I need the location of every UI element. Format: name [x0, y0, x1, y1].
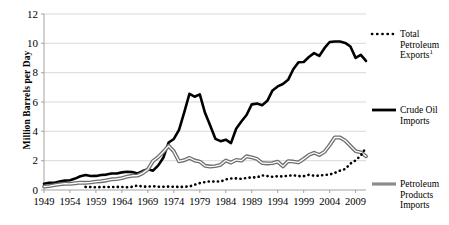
data-series-layer [44, 41, 366, 187]
legend-label-total-petroleum-exports: Total Petroleum Exports1 [400, 29, 439, 61]
legend-line-3: Exports1 [400, 50, 439, 61]
legend-swatches [372, 34, 396, 184]
legend-footnote-marker: 1 [430, 48, 434, 56]
legend-line-1: Petroleum [400, 179, 439, 190]
series-line-petroleum-products-imports [44, 137, 366, 186]
legend-line-2: Petroleum [400, 40, 439, 51]
legend-line-2: Products [400, 190, 439, 201]
legend-label-crude-oil-imports: Crude Oil Imports [400, 105, 438, 126]
series-line-crude-oil-imports [44, 41, 366, 183]
chart-figure: Million Barrels per Day 12 10 8 6 4 2 0 … [0, 0, 449, 225]
chart-canvas [0, 0, 449, 225]
gridlines [44, 14, 366, 161]
legend-line-1: Total [400, 29, 439, 40]
legend-label-petroleum-products-imports: Petroleum Products Imports [400, 179, 439, 211]
legend-line-1: Crude Oil [400, 105, 438, 116]
legend-line-3: Imports [400, 200, 439, 211]
legend-line-2: Imports [400, 116, 438, 127]
series-line-petroleum-products-imports-outline [44, 137, 366, 186]
